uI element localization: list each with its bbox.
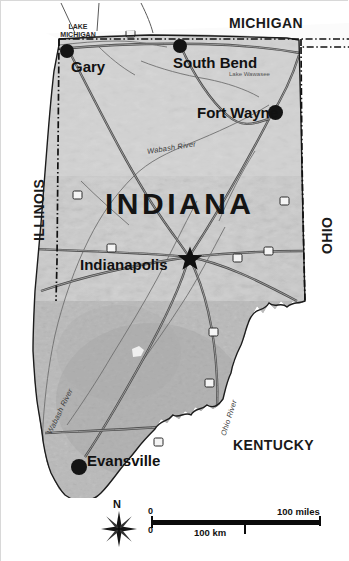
scale-miles-zero: 0 xyxy=(148,506,153,516)
city-label-fort-wayne: Fort Wayne xyxy=(197,104,278,121)
lake-michigan-line1: LAKE xyxy=(53,23,103,31)
scale-miles-label: 100 miles xyxy=(277,506,320,517)
city-label-south-bend: South Bend xyxy=(173,54,257,71)
city-dot-south-bend xyxy=(173,39,187,53)
state-label-illinois: ILLINOIS xyxy=(31,179,47,241)
lake-michigan-label: LAKE MICHIGAN xyxy=(53,23,103,39)
scale-tick-right xyxy=(319,516,321,526)
state-label-kentucky: KENTUCKY xyxy=(233,437,314,453)
lake-michigan-line2: MICHIGAN xyxy=(53,31,103,39)
city-dot-evansville xyxy=(71,459,87,475)
scale-tick-km xyxy=(244,524,246,534)
map-furniture: N 0 100 miles 0 100 km xyxy=(1,498,349,560)
scale-bar-line xyxy=(151,520,321,525)
map-title-indiana: INDIANA xyxy=(105,187,255,221)
compass-north-label: N xyxy=(113,498,121,510)
city-label-gary: Gary xyxy=(71,58,105,75)
state-label-ohio: OHIO xyxy=(319,217,335,254)
capital-star-indianapolis xyxy=(177,246,203,272)
terrain-relief-layer: .dashdot{fill:none;stroke:#111111;stroke… xyxy=(1,1,349,561)
city-dot-gary xyxy=(60,44,74,58)
city-label-evansville: Evansville xyxy=(87,452,160,469)
scale-km-label: 100 km xyxy=(194,527,226,538)
compass-rose-icon xyxy=(100,510,138,548)
city-label-indianapolis: Indianapolis xyxy=(80,256,168,273)
lake-wawasee-label: Lake Wawasee xyxy=(229,71,270,77)
scale-km-zero: 0 xyxy=(148,525,153,535)
state-label-michigan: MICHIGAN xyxy=(229,15,303,31)
